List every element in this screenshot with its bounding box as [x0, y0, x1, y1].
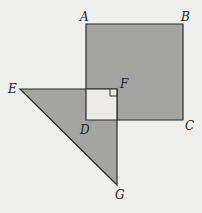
- geometry-diagram: A B C D E F G: [0, 0, 202, 213]
- label-e: E: [7, 82, 17, 96]
- label-g: G: [115, 188, 125, 202]
- overlap-square: [86, 89, 117, 120]
- label-a: A: [79, 10, 89, 24]
- label-f: F: [119, 77, 129, 91]
- label-b: B: [180, 10, 190, 24]
- label-d: D: [79, 123, 90, 137]
- label-c: C: [185, 119, 194, 133]
